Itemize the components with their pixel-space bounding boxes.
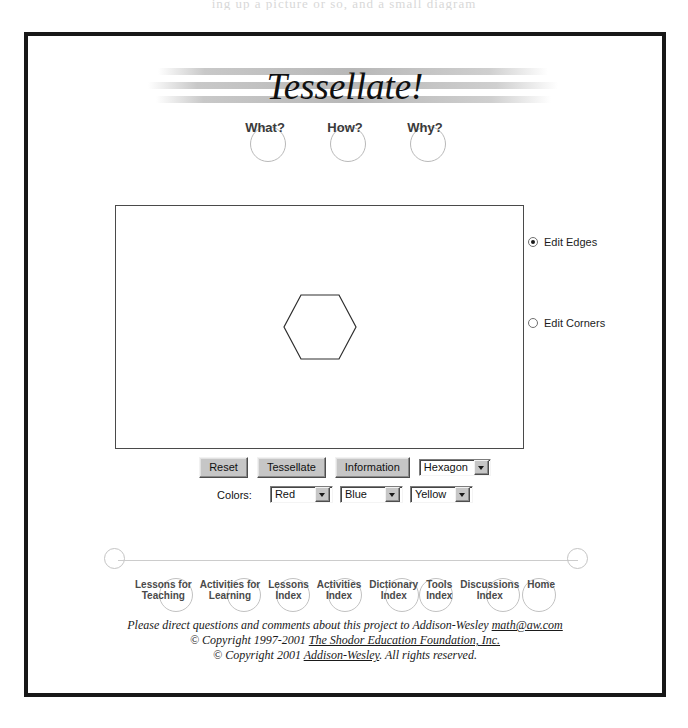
copyright-line-2: © Copyright 1997-2001 The Shodor Educati… [28,633,662,648]
top-nav: What? How? Why? [28,118,662,162]
copyright-line-3-text: © Copyright 2001 [213,648,304,662]
chevron-down-icon[interactable] [474,460,489,475]
footer-nav-label: Dictionary Index [369,570,418,601]
radio-edit-corners-label: Edit Corners [544,317,605,329]
circle-outline-icon [104,548,125,569]
copyright-block: Please direct questions and comments abo… [28,618,662,663]
email-link[interactable]: math@aw.com [492,618,563,632]
radio-edit-edges[interactable]: Edit Edges [528,236,597,248]
colors-label: Colors: [217,489,252,501]
nav-button-why[interactable]: Why? [398,118,452,162]
controls-row: Reset Tessellate Information Hexagon [28,457,662,478]
circle-outline-icon [567,548,588,569]
footer-nav: Lessons for Teaching Activities for Lear… [28,570,662,614]
copyright-line-3-suffix: . All rights reserved. [379,648,477,662]
shape-select[interactable]: Hexagon [419,459,491,476]
color-select-1[interactable]: Red [270,486,333,503]
footer-nav-label: Activities for Learning [200,570,261,601]
nav-button-what-label: What? [238,120,292,135]
radio-icon-unselected[interactable] [528,318,538,328]
nav-button-what[interactable]: What? [238,118,292,162]
chevron-down-icon[interactable] [455,487,470,502]
footer-nav-lessons-for-teaching[interactable]: Lessons for Teaching [132,570,195,614]
reset-button[interactable]: Reset [199,457,248,478]
color-select-2-value: Blue [345,487,367,502]
colors-row: Colors: Red Blue Yellow [28,486,662,503]
copyright-line-2-text: © Copyright 1997-2001 [190,633,309,647]
footer-nav-label: Lessons Index [268,570,309,601]
color-select-1-value: Red [275,487,295,502]
shodor-link[interactable]: The Shodor Education Foundation, Inc. [309,633,500,647]
nav-button-why-label: Why? [398,120,452,135]
footer-nav-label: Tools Index [426,570,452,601]
information-button[interactable]: Information [335,457,410,478]
header-banner: Tessellate! [28,62,662,114]
radio-edit-edges-label: Edit Edges [544,236,597,248]
footer-nav-label: Activities Index [317,570,361,601]
radio-edit-corners[interactable]: Edit Corners [528,317,605,329]
nav-button-how-label: How? [318,120,372,135]
copyright-line-1: Please direct questions and comments abo… [28,618,662,633]
footer-divider [104,542,588,568]
footer-nav-lessons-index[interactable]: Lessons Index [265,570,312,614]
color-select-3[interactable]: Yellow [410,486,473,503]
footer-nav-label: Lessons for Teaching [135,570,192,601]
color-select-2[interactable]: Blue [340,486,403,503]
copyright-line-3: © Copyright 2001 Addison-Wesley. All rig… [28,648,662,663]
copyright-line-1-text: Please direct questions and comments abo… [127,618,491,632]
scan-remnant-text: ing up a picture or so, and a small diag… [0,0,688,10]
footer-nav-dictionary-index[interactable]: Dictionary Index [366,570,421,614]
tessellation-canvas[interactable] [115,205,524,449]
shape-select-value: Hexagon [424,460,468,475]
color-select-3-value: Yellow [415,487,446,502]
nav-button-how[interactable]: How? [318,118,372,162]
addison-wesley-link[interactable]: Addison-Wesley [304,648,380,662]
footer-nav-label: Home [527,570,555,590]
horizontal-rule [118,560,578,561]
footer-nav-home[interactable]: Home [524,570,558,614]
footer-nav-activities-index[interactable]: Activities Index [314,570,364,614]
footer-nav-label: Discussions Index [460,570,519,601]
radio-icon-selected[interactable] [528,237,538,247]
footer-nav-activities-for-learning[interactable]: Activities for Learning [197,570,264,614]
tessellate-button[interactable]: Tessellate [257,457,326,478]
chevron-down-icon[interactable] [315,487,330,502]
footer-nav-discussions-index[interactable]: Discussions Index [457,570,522,614]
page-frame: Tessellate! What? How? Why? Edit Edges E… [24,32,666,697]
hexagon-shape[interactable] [282,291,358,363]
page-title: Tessellate! [28,62,662,112]
footer-nav-tools-index[interactable]: Tools Index [423,570,455,614]
chevron-down-icon[interactable] [385,487,400,502]
